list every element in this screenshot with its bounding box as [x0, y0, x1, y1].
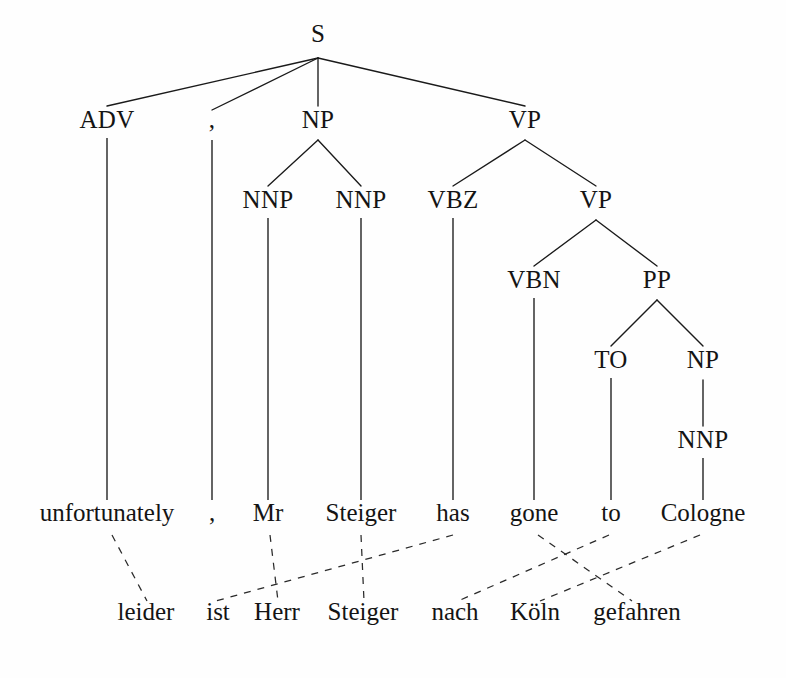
target-word: ist [206, 598, 230, 625]
target-word: Köln [510, 598, 561, 625]
node-label-np1: NP [302, 106, 335, 133]
target-sentence-row: leideristHerrSteigernachKölngefahren [118, 598, 682, 625]
branch-vp1-to-vbz [453, 140, 525, 186]
branch-pp-to-np2 [657, 300, 703, 346]
source-word: to [601, 499, 620, 526]
node-label-to: TO [594, 346, 627, 373]
align-unfortunately-leider [112, 535, 147, 601]
branch-s-to-vp [318, 58, 525, 106]
source-word: Cologne [661, 499, 746, 526]
branch-s-to-adv [107, 58, 318, 106]
target-word: gefahren [593, 598, 681, 625]
align-gone-gefahren [538, 535, 632, 601]
source-word: , [209, 499, 215, 526]
node-label-nnp3: NNP [678, 426, 729, 453]
source-word: Mr [253, 499, 284, 526]
target-word: leider [118, 598, 176, 625]
branch-vp1-to-vp2 [525, 140, 596, 186]
branch-vp2-to-vbn [534, 220, 596, 266]
constituent-labels: S ADV , NP VP NNP NNP VBZ VP VBN PP TO N… [79, 20, 728, 453]
branch-pp-to-to [611, 300, 657, 346]
node-label-nnp2: NNP [336, 186, 387, 213]
node-label-vbn: VBN [507, 266, 561, 293]
align-mr-herr [270, 535, 278, 601]
alignment-links [112, 535, 700, 601]
source-word: gone [510, 499, 559, 526]
node-label-nnp1: NNP [243, 186, 294, 213]
align-steiger-steiger [361, 535, 364, 601]
parse-tree-figure: S ADV , NP VP NNP NNP VBZ VP VBN PP TO N… [0, 0, 786, 678]
node-label-s: S [311, 20, 325, 47]
source-word: Steiger [326, 499, 397, 526]
source-sentence-row: unfortunately,MrSteigerhasgonetoCologne [40, 499, 746, 526]
node-label-adv: ADV [79, 106, 134, 133]
align-cologne-koln [540, 535, 700, 601]
node-label-comma-pos: , [209, 106, 216, 133]
tree-canvas: S ADV , NP VP NNP NNP VBZ VP VBN PP TO N… [0, 0, 786, 678]
preterminal-legs [107, 138, 703, 500]
source-word: unfortunately [40, 499, 175, 526]
align-to-nach [458, 535, 609, 601]
branch-np-to-nnp1 [268, 140, 318, 186]
branch-np-to-nnp2 [318, 140, 361, 186]
align-has-ist [216, 535, 453, 601]
target-word: Steiger [328, 598, 399, 625]
node-label-vp2: VP [580, 186, 613, 213]
node-label-pp: PP [643, 266, 671, 293]
node-label-np2: NP [687, 346, 720, 373]
source-word: has [436, 499, 469, 526]
node-label-vp1: VP [509, 106, 542, 133]
branch-vp2-to-pp [596, 220, 657, 266]
target-word: nach [431, 598, 479, 625]
branch-s-to-comma [212, 58, 318, 110]
target-word: Herr [254, 598, 300, 625]
node-label-vbz: VBZ [428, 186, 479, 213]
